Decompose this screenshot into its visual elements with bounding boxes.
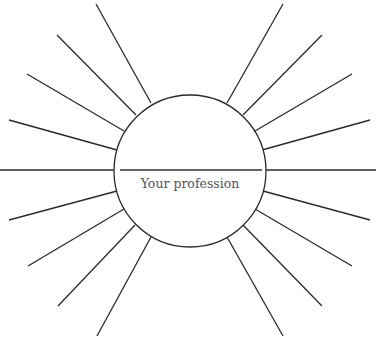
ray [57, 35, 136, 115]
center-label: Your profession [140, 176, 240, 191]
ray [243, 225, 322, 306]
ray [243, 35, 322, 115]
ray [255, 74, 352, 131]
ray [96, 4, 151, 103]
ray [227, 4, 283, 103]
ray [9, 191, 117, 220]
profession-sun-diagram: Your profession [0, 0, 376, 344]
ray [255, 209, 352, 266]
ray [27, 74, 124, 131]
center-circle [114, 95, 266, 247]
ray [28, 209, 124, 266]
ray [58, 225, 135, 306]
ray [262, 120, 370, 150]
ray [227, 237, 283, 336]
ray [263, 191, 370, 220]
ray [97, 237, 151, 336]
ray [9, 120, 117, 150]
